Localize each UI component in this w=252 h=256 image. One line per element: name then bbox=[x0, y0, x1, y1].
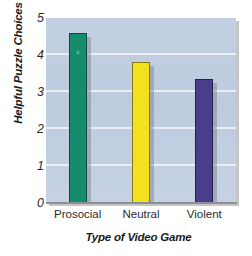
x-tick-label: Prosocial bbox=[54, 208, 101, 220]
bar-annotation: c bbox=[76, 48, 79, 56]
y-tick-label: 4 bbox=[26, 49, 44, 62]
plot-area: c bbox=[46, 18, 236, 203]
bar-body: c bbox=[69, 33, 87, 203]
y-tick-label: 3 bbox=[26, 86, 44, 99]
x-axis-tick-labels: ProsocialNeutralViolent bbox=[46, 208, 236, 226]
bar-shadow bbox=[150, 66, 154, 203]
y-axis-title: Helpful Puzzle Choices bbox=[9, 0, 27, 143]
x-tick-label: Violent bbox=[187, 208, 222, 220]
bar-violent bbox=[195, 79, 213, 203]
y-tick-label: 1 bbox=[26, 160, 44, 173]
bar-prosocial: c bbox=[69, 33, 87, 203]
bar-body bbox=[195, 79, 213, 203]
bar-body bbox=[132, 62, 150, 203]
x-tick-label: Neutral bbox=[122, 208, 159, 220]
y-tick-label: 2 bbox=[26, 123, 44, 136]
bar-shadow bbox=[87, 37, 91, 203]
y-axis-tick-labels: 012345 bbox=[26, 10, 44, 211]
bar-neutral bbox=[132, 62, 150, 203]
bar-chart-figure: Helpful Puzzle Choices 012345 c Prosocia… bbox=[0, 0, 252, 256]
y-tick-label: 0 bbox=[26, 197, 44, 210]
x-axis-title: Type of Video Game bbox=[36, 231, 241, 243]
x-axis-line bbox=[46, 202, 237, 204]
bar-shadow bbox=[213, 83, 217, 203]
y-tick-label: 5 bbox=[26, 12, 44, 25]
